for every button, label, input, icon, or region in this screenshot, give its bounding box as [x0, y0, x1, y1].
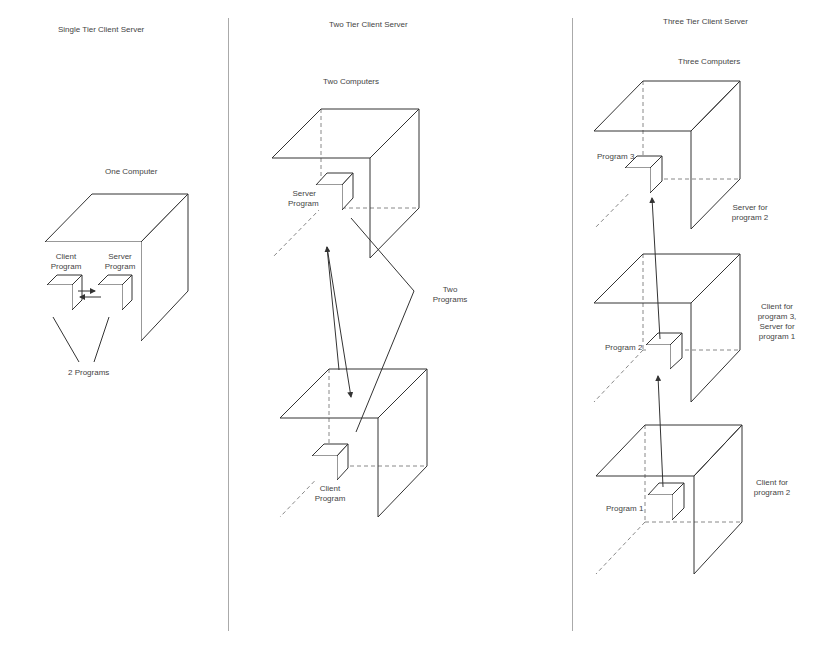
role-line: program 2: [725, 213, 775, 223]
label-server-program: Server Program: [101, 252, 139, 272]
client-program-cube-small: [312, 444, 348, 480]
program2-cube-small: [646, 333, 682, 369]
role-client-3-server-1: Client for program 3, Server for program…: [752, 302, 802, 342]
panel-divider-right: [572, 18, 573, 631]
label-client-program: Client Program: [48, 252, 84, 272]
panel-title-three-tier: Three Tier Client Server: [663, 17, 748, 27]
subtitle-two-computers: Two Computers: [323, 77, 379, 87]
server-program-cube: [98, 275, 132, 310]
program1-cube-small: [648, 483, 684, 520]
panel-divider-left: [228, 18, 229, 631]
label-client-program-2tier: Client Program: [311, 484, 349, 504]
label-client-line2: Program: [48, 262, 84, 272]
label-two-programs-line2: Programs: [430, 295, 470, 305]
role-line: Server for: [752, 322, 802, 332]
label-two-programs: Two Programs: [430, 285, 470, 305]
role-line: Client for: [747, 478, 797, 488]
panel-title-two-tier: Two Tier Client Server: [329, 20, 408, 30]
program2-computer-cube: [594, 254, 740, 402]
panel-title-single-tier: Single Tier Client Server: [58, 25, 144, 35]
label-server-line1: Server: [101, 252, 139, 262]
label-client-line1: Client: [311, 484, 349, 494]
subtitle-three-computers: Three Computers: [678, 57, 740, 67]
client-server-diagram: [0, 0, 819, 651]
label-client-line2: Program: [311, 494, 349, 504]
label-2-programs: 2 Programs: [68, 368, 109, 378]
client-program-cube: [47, 275, 82, 310]
two-programs-callout-lines: [351, 218, 414, 432]
role-line: Server for: [725, 203, 775, 213]
label-client-line1: Client: [48, 252, 84, 262]
label-program-1: Program 1: [606, 504, 643, 514]
role-line: program 1: [752, 332, 802, 342]
label-server-program-2tier: Server Program: [288, 189, 316, 209]
label-two-programs-line1: Two: [430, 285, 470, 295]
label-server-line1: Server: [288, 189, 316, 199]
label-program-3: Program 3: [597, 152, 634, 162]
label-server-line2: Program: [288, 199, 316, 209]
role-line: program 2: [747, 488, 797, 498]
label-server-line2: Program: [101, 262, 139, 272]
role-line: program 3,: [752, 312, 802, 322]
role-client-for-program-2: Client for program 2: [747, 478, 797, 498]
client-computer-cube: [280, 369, 427, 517]
role-server-for-program-2: Server for program 2: [725, 203, 775, 223]
subtitle-one-computer: One Computer: [105, 167, 157, 177]
label-program-2: Program 2: [605, 343, 642, 353]
server-program-cube-small: [316, 173, 353, 210]
two-tier-communication-arrow: [327, 247, 351, 397]
role-line: Client for: [752, 302, 802, 312]
